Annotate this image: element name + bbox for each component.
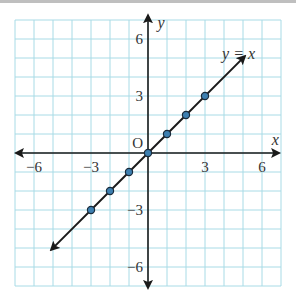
data-point: [87, 206, 94, 213]
equation-label: y = x: [220, 45, 255, 63]
line-segment-upper: [148, 56, 245, 153]
y-axis-label: y: [155, 14, 165, 32]
x-tick-label: 6: [258, 159, 266, 175]
x-axis-label: x: [271, 131, 279, 148]
y-tick-label: 3: [136, 88, 144, 104]
y-tick-label: −3: [127, 202, 143, 218]
x-tick-label: −3: [83, 159, 99, 175]
y-tick-label: −6: [127, 259, 143, 275]
data-point: [144, 149, 151, 156]
x-tick-label: −6: [26, 159, 42, 175]
data-point: [163, 130, 170, 137]
data-point: [182, 111, 189, 118]
y-tick-label: 6: [136, 31, 144, 47]
origin-label: O: [132, 135, 143, 151]
data-point: [201, 92, 208, 99]
x-tick-label: 3: [201, 159, 209, 175]
data-point: [106, 187, 113, 194]
coordinate-plane: −6−33663−3−6O y = x xy: [0, 0, 296, 301]
data-point: [125, 168, 132, 175]
